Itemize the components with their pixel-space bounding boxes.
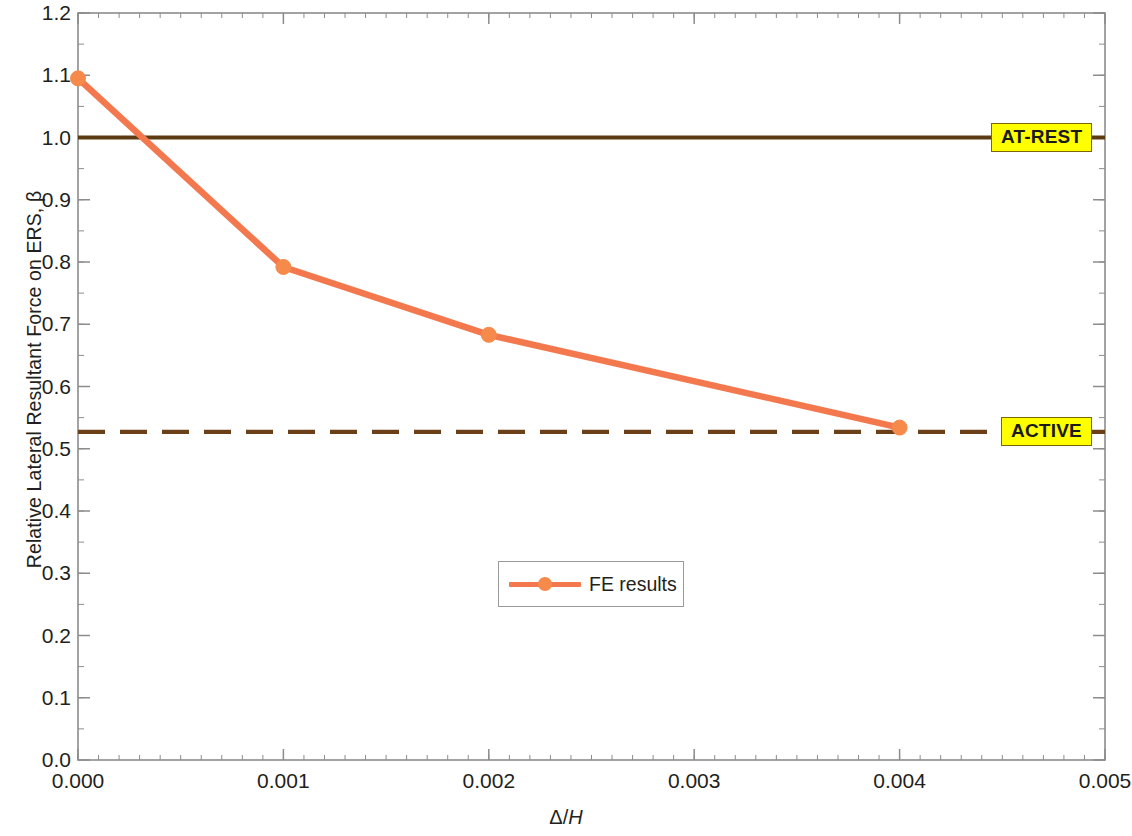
x-tick-label: 0.000 [18,770,138,791]
data-series-group [71,71,908,435]
reference-lines [78,138,1105,432]
legend-marker-icon [538,577,552,591]
legend-swatch-fe-results [509,572,581,596]
x-axis-title-delta: Δ/ [549,806,568,828]
series-marker [481,327,496,342]
annotation-active: ACTIVE [1001,417,1092,446]
series-marker [71,71,86,86]
legend-label-fe-results: FE results [589,573,677,596]
y-axis-major-ticks [78,13,1105,760]
y-tick-label: 1.1 [11,64,71,85]
annotation-at-rest: AT-REST [991,123,1092,152]
chart-legend: FE results [498,561,684,607]
x-axis-title: Δ/H [0,806,1132,829]
y-tick-label: 1.2 [11,2,71,23]
y-axis-minor-ticks [78,13,1105,760]
plot-canvas [0,0,1132,836]
x-tick-label: 0.005 [1045,770,1132,791]
x-axis-major-ticks [78,13,1105,760]
chart-figure: 0.00.10.20.30.40.50.60.70.80.91.01.11.2 … [0,0,1132,836]
x-tick-label: 0.003 [634,770,754,791]
y-tick-label: 0.2 [11,625,71,646]
x-axis-title-h: H [568,806,582,828]
y-tick-label: 0.0 [11,749,71,770]
y-tick-label: 1.0 [11,127,71,148]
x-axis-minor-ticks [78,13,1105,760]
y-axis-title: Relative Lateral Resultant Force on ERS,… [23,160,46,600]
plot-frame [78,13,1105,760]
x-tick-label: 0.004 [840,770,960,791]
x-tick-label: 0.002 [429,770,549,791]
series-line-fe-results [78,78,900,427]
series-marker [892,420,907,435]
x-tick-label: 0.001 [223,770,343,791]
y-tick-label: 0.1 [11,687,71,708]
series-marker [276,259,291,274]
legend-entry-fe-results: FE results [499,562,683,606]
